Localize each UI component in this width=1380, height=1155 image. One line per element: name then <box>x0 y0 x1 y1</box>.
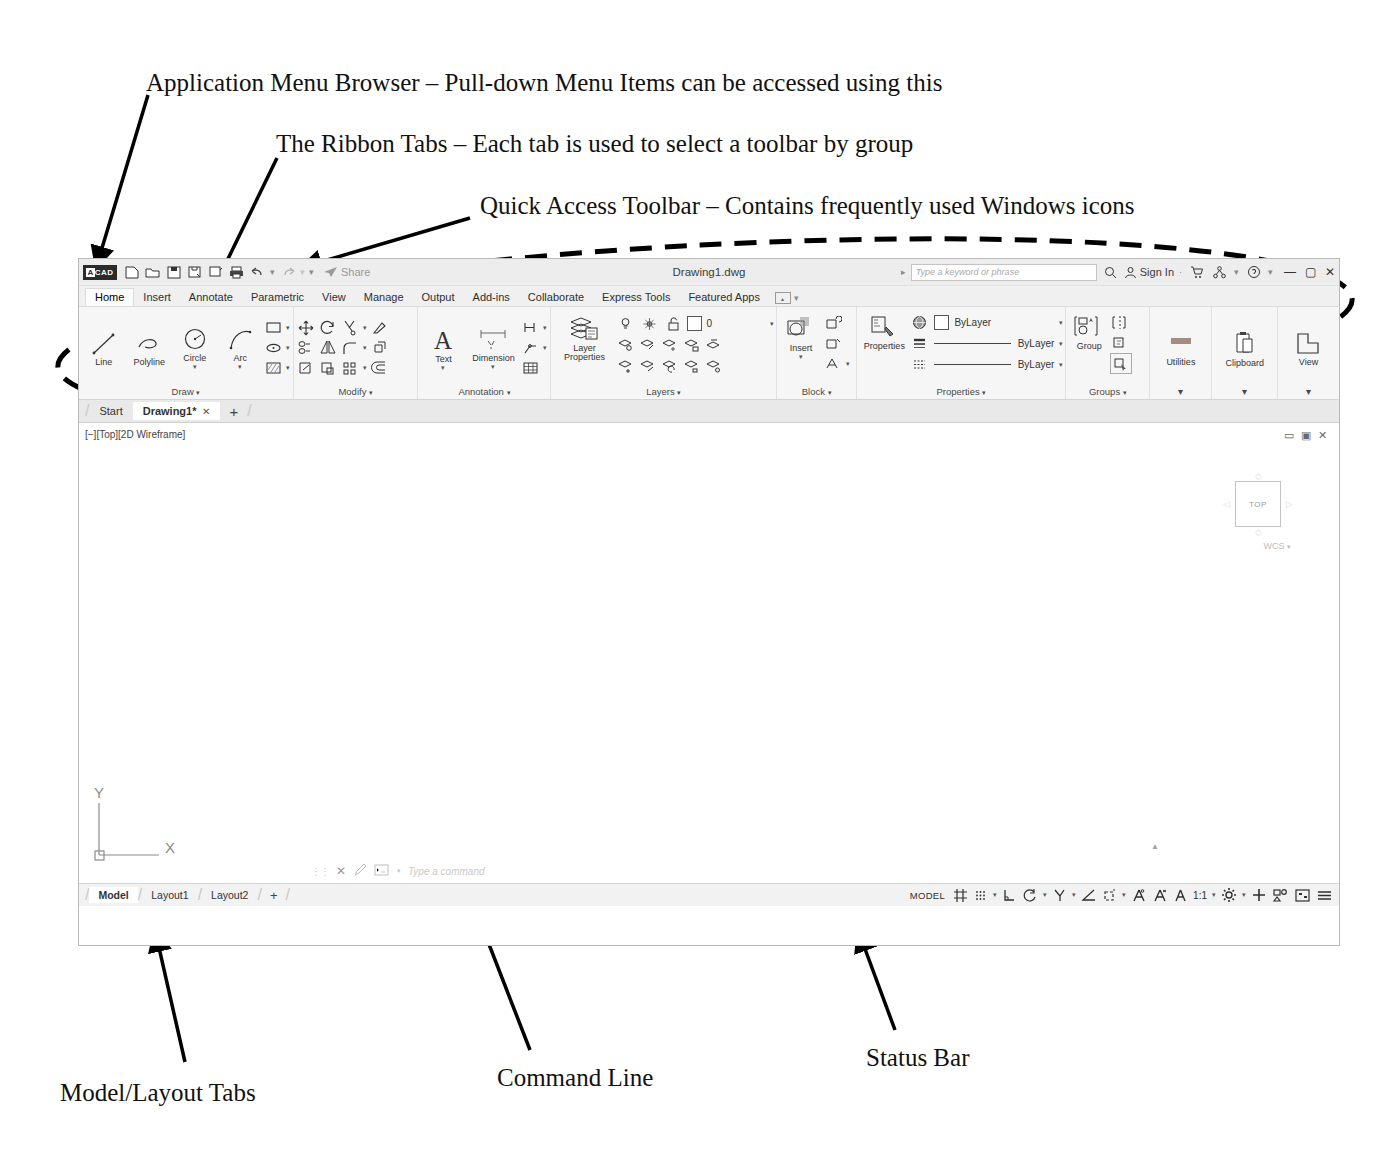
dimension-dropdown-icon[interactable]: ▾ <box>490 363 496 371</box>
osnap-dropdown-icon[interactable]: ▾ <box>1072 891 1076 899</box>
circle-dropdown-icon[interactable]: ▾ <box>192 363 198 371</box>
ribbon-display-options[interactable]: ▴ ▾ <box>775 292 800 306</box>
array-icon[interactable] <box>340 358 360 377</box>
move-icon[interactable] <box>296 318 316 337</box>
ribbon-panel-annotation-title[interactable]: Annotation ▾ <box>420 386 548 399</box>
table-icon[interactable] <box>520 358 540 377</box>
erase-icon[interactable] <box>370 318 390 337</box>
block-insert-button[interactable]: Insert ▾ <box>779 312 823 361</box>
viewcube-top-face[interactable]: TOP <box>1235 481 1281 527</box>
ribbon-tab-view[interactable]: View <box>313 289 355 306</box>
view-cube[interactable]: ◇ ◁ TOP ▷ ◇ <box>1223 471 1293 537</box>
ribbon-tab-parametric[interactable]: Parametric <box>242 289 313 306</box>
add-layout-button[interactable]: + <box>262 888 286 903</box>
clipboard-button[interactable]: Clipboard <box>1215 327 1275 368</box>
ortho-icon[interactable] <box>1002 886 1017 904</box>
match-properties-button[interactable]: Properties <box>859 312 909 351</box>
edit-block-icon[interactable] <box>823 334 843 353</box>
polar-dropdown-icon[interactable]: ▾ <box>1043 891 1047 899</box>
command-line-close-icon[interactable]: ✕ <box>336 864 346 878</box>
viewport-controls-label[interactable]: [−][Top][2D Wireframe] <box>85 429 185 440</box>
model-tab[interactable]: Model <box>89 887 137 903</box>
doc-tab-start[interactable]: Start <box>89 402 132 420</box>
ribbon-options-dropdown-icon[interactable]: ▾ <box>793 293 800 303</box>
isolate-objects-icon[interactable] <box>1272 886 1289 904</box>
fullscreen-icon[interactable] <box>1294 886 1311 904</box>
layer-thaw-icon[interactable] <box>639 314 659 333</box>
block-dropdown-icon[interactable]: ▾ <box>845 360 851 368</box>
ribbon-tab-addins[interactable]: Add-ins <box>464 289 519 306</box>
snap-icon[interactable] <box>973 886 988 904</box>
linetype-dropdown-icon[interactable]: ▾ <box>1059 361 1063 369</box>
ribbon-panel-draw-title[interactable]: Draw ▾ <box>81 386 291 399</box>
ribbon-minimize-icon[interactable]: ▴ <box>775 292 791 304</box>
hardware-acceleration-icon[interactable] <box>1251 886 1267 904</box>
otrack-dropdown-icon[interactable]: ▾ <box>1122 891 1126 899</box>
annotation-text-button[interactable]: A Text ▾ <box>420 323 466 372</box>
stretch-icon[interactable] <box>296 358 316 377</box>
insert-dropdown-icon[interactable]: ▾ <box>798 353 804 361</box>
trim-icon[interactable] <box>340 318 360 337</box>
fillet-dropdown-icon[interactable]: ▾ <box>362 344 368 352</box>
define-attributes-icon[interactable] <box>823 354 843 373</box>
rectangle-icon[interactable] <box>263 318 283 337</box>
snap-dropdown-icon[interactable]: ▾ <box>993 891 997 899</box>
ribbon-tab-insert[interactable]: Insert <box>134 289 180 306</box>
hatch-dropdown-icon[interactable]: ▾ <box>285 364 291 372</box>
layer-lock-2-icon[interactable] <box>681 356 701 375</box>
draw-circle-button[interactable]: Circle ▾ <box>172 324 218 371</box>
close-viewport-icon[interactable]: ✕ <box>1318 429 1327 442</box>
color-globe-icon[interactable] <box>909 313 929 332</box>
rotate-icon[interactable] <box>318 318 338 337</box>
offset-icon[interactable] <box>370 358 390 377</box>
fillet-icon[interactable] <box>340 338 360 357</box>
layout2-tab[interactable]: Layout2 <box>202 887 257 903</box>
lineweight-display-icon[interactable] <box>1131 886 1147 904</box>
minimize-viewport-icon[interactable]: ▭ <box>1284 429 1294 442</box>
ribbon-panel-modify-title[interactable]: Modify ▾ <box>296 386 415 399</box>
grid-icon[interactable] <box>953 886 968 904</box>
draw-line-button[interactable]: Line <box>81 328 127 367</box>
copy-icon[interactable] <box>296 338 316 357</box>
otrack-icon[interactable] <box>1102 886 1117 904</box>
wcs-label[interactable]: WCS ▾ <box>1263 541 1291 551</box>
mirror-icon[interactable] <box>318 338 338 357</box>
workspace-gear-icon[interactable] <box>1221 886 1237 904</box>
current-layer-row[interactable]: 0 ▾ <box>615 314 774 333</box>
doc-tab-close-icon[interactable]: ✕ <box>202 406 210 417</box>
ribbon-panel-block-title[interactable]: Block ▾ <box>779 386 854 399</box>
viewcube-right-arrow-icon[interactable]: ▷ <box>1286 499 1293 509</box>
ribbon-panel-groups-title[interactable]: Groups ▾ <box>1068 386 1147 399</box>
rectangle-dropdown-icon[interactable]: ▾ <box>285 324 291 332</box>
create-block-icon[interactable] <box>823 314 843 333</box>
layer-color-swatch[interactable] <box>687 316 702 331</box>
layout1-tab[interactable]: Layout1 <box>142 887 197 903</box>
property-linetype-row[interactable]: ByLayer ▾ <box>909 355 1063 374</box>
lineweight-icon[interactable] <box>909 334 929 353</box>
layer-unisolate-icon[interactable] <box>637 335 657 354</box>
group-edit-icon[interactable] <box>1110 333 1130 352</box>
command-line-pen-icon[interactable] <box>353 863 367 879</box>
scale-icon[interactable] <box>318 358 338 377</box>
transparency-icon[interactable] <box>1152 886 1168 904</box>
selection-cycling-icon[interactable] <box>1173 886 1188 904</box>
ribbon-tab-featured-apps[interactable]: Featured Apps <box>679 289 769 306</box>
layer-list-dropdown-icon[interactable]: ▾ <box>770 320 774 328</box>
layer-previous-icon[interactable] <box>659 356 679 375</box>
leader-icon[interactable] <box>520 318 540 337</box>
layer-freeze-icon[interactable] <box>659 335 679 354</box>
lineweight-dropdown-icon[interactable]: ▾ <box>1059 340 1063 348</box>
text-dropdown-icon[interactable]: ▾ <box>440 364 446 372</box>
ribbon-panel-layers-title[interactable]: Layers ▾ <box>553 386 774 399</box>
ribbon-panel-clipboard-title[interactable]: ▾ <box>1214 386 1275 399</box>
command-line-grip-icon[interactable]: ⋮⋮ <box>311 866 329 877</box>
drawing-area[interactable]: [−][Top][2D Wireframe] ▭ ▣ ✕ ◇ ◁ TOP ▷ ◇… <box>79 423 1339 883</box>
ribbon-tab-annotate[interactable]: Annotate <box>180 289 242 306</box>
osnap-icon[interactable] <box>1052 886 1067 904</box>
annotation-dimension-button[interactable]: Dimension ▾ <box>466 324 520 371</box>
ribbon-tab-collaborate[interactable]: Collaborate <box>519 289 593 306</box>
angle-icon[interactable] <box>1081 886 1097 904</box>
array-dropdown-icon[interactable]: ▾ <box>362 364 368 372</box>
annotation-scale-dropdown-icon[interactable]: ▾ <box>1212 891 1216 899</box>
multileader-dropdown-icon[interactable]: ▾ <box>542 344 548 352</box>
